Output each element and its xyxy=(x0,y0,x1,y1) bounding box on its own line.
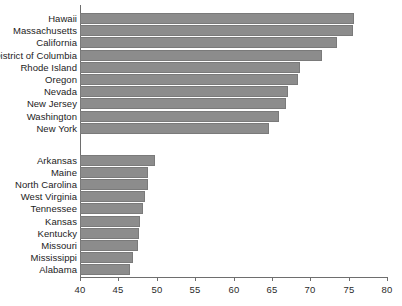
bar-kentucky xyxy=(80,228,139,239)
x-tick-label-80: 80 xyxy=(382,284,393,295)
x-tick-mark xyxy=(349,277,350,281)
x-tick-label-75: 75 xyxy=(344,284,355,295)
x-tick-mark xyxy=(195,277,196,281)
x-tick-label-60: 60 xyxy=(229,284,240,295)
bar-row: Kentucky xyxy=(0,228,402,239)
bar-tennessee xyxy=(80,203,143,214)
category-label-maine: Maine xyxy=(51,167,80,178)
category-label-missouri: Missouri xyxy=(41,240,80,251)
bar-row: New York xyxy=(0,123,402,134)
x-tick-label-55: 55 xyxy=(190,284,201,295)
x-tick-mark xyxy=(387,277,388,281)
x-tick-label-40: 40 xyxy=(75,284,86,295)
bar-row: Alabama xyxy=(0,264,402,275)
category-label-hawaii: Hawaii xyxy=(48,13,80,24)
category-label-west-virginia: West Virginia xyxy=(21,191,80,202)
x-tick-label-50: 50 xyxy=(152,284,163,295)
bar-row: Mississippi xyxy=(0,252,402,263)
bar-massachusetts xyxy=(80,25,353,36)
category-label-kansas: Kansas xyxy=(45,216,80,227)
category-label-arkansas: Arkansas xyxy=(37,155,80,166)
category-label-washington: Washington xyxy=(27,111,80,122)
bar-chart: 404550556065707580 HawaiiMassachusettsCa… xyxy=(0,0,402,306)
bar-row: Kansas xyxy=(0,216,402,227)
bar-new-york xyxy=(80,123,269,134)
category-label-new-york: New York xyxy=(36,123,80,134)
x-tick-mark xyxy=(272,277,273,281)
category-label-rhode-island: Rhode Island xyxy=(20,62,80,73)
bar-row: West Virginia xyxy=(0,191,402,202)
category-label-alabama: Alabama xyxy=(39,264,80,275)
category-label-district-of-columbia: District of Columbia xyxy=(0,50,80,61)
x-tick-label-70: 70 xyxy=(305,284,316,295)
bar-row: North Carolina xyxy=(0,179,402,190)
bar-west-virginia xyxy=(80,191,145,202)
bar-row: California xyxy=(0,37,402,48)
bar-rhode-island xyxy=(80,62,300,73)
bar-row: Rhode Island xyxy=(0,62,402,73)
category-label-tennessee: Tennessee xyxy=(31,203,80,214)
x-tick-mark xyxy=(118,277,119,281)
bar-row: Washington xyxy=(0,111,402,122)
bar-arkansas xyxy=(80,155,155,166)
bar-row: District of Columbia xyxy=(0,50,402,61)
category-label-new-jersey: New Jersey xyxy=(27,98,80,109)
category-label-north-carolina: North Carolina xyxy=(15,179,80,190)
x-tick-mark xyxy=(234,277,235,281)
bar-nevada xyxy=(80,86,288,97)
bar-north-carolina xyxy=(80,179,148,190)
bar-row: Tennessee xyxy=(0,203,402,214)
bar-hawaii xyxy=(80,13,354,24)
bar-row: Hawaii xyxy=(0,13,402,24)
bar-oregon xyxy=(80,74,298,85)
bar-new-jersey xyxy=(80,98,286,109)
category-label-massachusetts: Massachusetts xyxy=(13,25,80,36)
bar-row: Massachusetts xyxy=(0,25,402,36)
bar-row: Oregon xyxy=(0,74,402,85)
bar-maine xyxy=(80,167,148,178)
bar-row: Maine xyxy=(0,167,402,178)
category-label-nevada: Nevada xyxy=(44,86,80,97)
bar-kansas xyxy=(80,216,140,227)
category-label-kentucky: Kentucky xyxy=(38,228,80,239)
x-tick-mark xyxy=(157,277,158,281)
bar-missouri xyxy=(80,240,138,251)
bar-california xyxy=(80,37,337,48)
category-label-mississippi: Mississippi xyxy=(31,252,80,263)
x-tick-mark xyxy=(80,277,81,281)
plot-area: 404550556065707580 HawaiiMassachusettsCa… xyxy=(0,0,402,306)
x-tick-mark xyxy=(310,277,311,281)
bar-mississippi xyxy=(80,252,133,263)
bar-row: New Jersey xyxy=(0,98,402,109)
bar-district-of-columbia xyxy=(80,50,322,61)
category-label-california: California xyxy=(36,37,80,48)
x-tick-label-65: 65 xyxy=(267,284,278,295)
category-label-oregon: Oregon xyxy=(45,74,80,85)
bar-alabama xyxy=(80,264,130,275)
bar-row: Missouri xyxy=(0,240,402,251)
bar-washington xyxy=(80,111,279,122)
x-tick-label-45: 45 xyxy=(113,284,124,295)
bar-row: Arkansas xyxy=(0,155,402,166)
bar-row: Nevada xyxy=(0,86,402,97)
